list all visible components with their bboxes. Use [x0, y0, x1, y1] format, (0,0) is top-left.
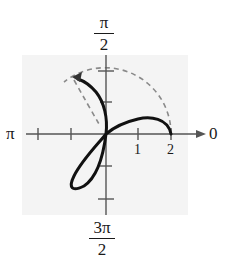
angle-label-3pi-over-2: 3π 2	[89, 219, 115, 258]
angle-label-zero: 0	[209, 125, 218, 142]
plot-canvas	[0, 0, 230, 270]
polar-chart: π 2 3π 2 π 0 1 2	[0, 0, 230, 270]
angle-label-pi-over-2: π 2	[94, 14, 114, 53]
angle-label-pi: π	[6, 125, 15, 142]
radial-tick-label-1: 1	[134, 143, 141, 157]
axis-arrow-icon	[196, 130, 206, 138]
radial-tick-label-2: 2	[167, 143, 174, 157]
fraction-bar	[89, 238, 115, 239]
fraction-bar	[94, 33, 114, 34]
